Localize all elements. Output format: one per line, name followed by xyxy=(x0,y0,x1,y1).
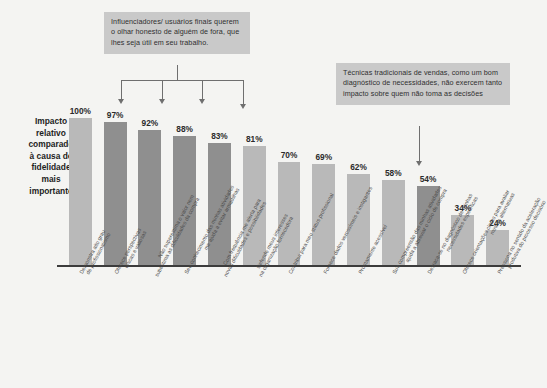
callout-line: útil em seu trabalho. xyxy=(142,38,208,47)
bar-value-label: 62% xyxy=(350,162,367,172)
bar-value-label: 92% xyxy=(142,118,159,128)
connector-drop xyxy=(121,80,122,100)
bar-value-label: 88% xyxy=(176,124,193,134)
callout-line: impacto sobre quem não toma as xyxy=(343,89,452,98)
connector-drop xyxy=(162,80,163,100)
callout-line: Influenciadores/ usuários finais xyxy=(111,17,212,26)
bar-value-label: 70% xyxy=(281,150,298,160)
bar-value-label: 100% xyxy=(70,106,91,116)
connector-stem xyxy=(177,65,178,80)
callout-influenciadores: Influenciadores/ usuários finais querem … xyxy=(104,12,250,54)
callout-line: Técnicas tradicionais de vendas, xyxy=(343,68,450,77)
callout-line: necessidades, não exercem tanto xyxy=(392,78,502,87)
bar-slot[interactable]: 62% xyxy=(347,104,370,265)
bar-value-label: 81% xyxy=(246,134,263,144)
bar-value-label: 97% xyxy=(107,110,124,120)
bar-slot[interactable]: 69% xyxy=(312,104,335,265)
connector-drop xyxy=(202,80,203,100)
callout-line: decisões xyxy=(454,89,483,98)
callout-tecnicas: Técnicas tradicionais de vendas, como um… xyxy=(336,63,510,105)
bar-value-label: 58% xyxy=(385,168,402,178)
connector-bus xyxy=(121,80,243,81)
bar[interactable] xyxy=(69,118,92,265)
connector-drop xyxy=(243,80,244,105)
bar[interactable] xyxy=(278,162,301,265)
x-axis-category-labels: Demonstra alto graude profissionalismoOf… xyxy=(0,268,522,388)
bar-value-label: 54% xyxy=(420,174,437,184)
bar-slot[interactable]: 58% xyxy=(382,104,405,265)
bar-slot[interactable]: 100% xyxy=(69,104,92,265)
bar-value-label: 69% xyxy=(315,152,332,162)
bar-value-label: 83% xyxy=(211,131,228,141)
